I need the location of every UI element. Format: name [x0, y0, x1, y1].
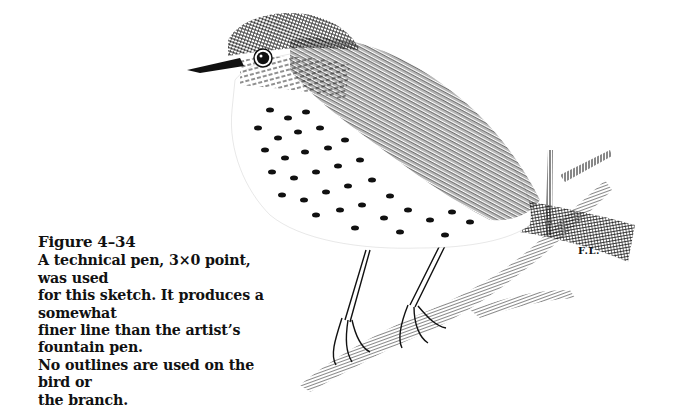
caption-line: for this sketch. It produces a somewhat: [38, 287, 278, 322]
caption-line: finer line than the artist’s fountain pe…: [38, 322, 278, 357]
caption-line: No outlines are used on the bird or: [38, 357, 278, 392]
bird-beak: [187, 58, 244, 73]
caption-line: the branch.: [38, 392, 278, 409]
figure-caption: Figure 4–34 A technical pen, 3×0 point, …: [38, 234, 278, 409]
figure-label: Figure 4–34: [38, 234, 278, 251]
bird-eye: [254, 49, 272, 67]
caption-line: A technical pen, 3×0 point, was used: [38, 252, 278, 287]
artist-signature: F.L.: [578, 245, 600, 256]
